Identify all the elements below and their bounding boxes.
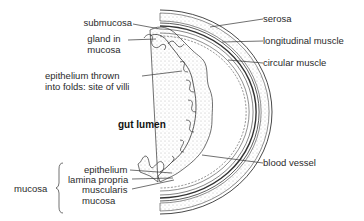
label-circular-muscle: circular muscle <box>263 57 326 68</box>
label-mucosa: mucosa <box>14 183 47 194</box>
label-muscularis-mucosa: muscularis mucosa <box>82 184 127 206</box>
label-serosa: serosa <box>263 13 292 24</box>
label-longitudinal-muscle: longitudinal muscle <box>263 35 344 46</box>
gut-wall-cross-section <box>0 0 364 221</box>
label-gland-in-mucosa: gland in mucosa <box>82 33 126 55</box>
label-submucosa: submucosa <box>58 17 132 28</box>
label-blood-vessel: blood vessel <box>263 157 316 168</box>
mucosa-bracket <box>56 163 63 213</box>
label-gut-lumen: gut lumen <box>118 119 166 130</box>
label-epithelium-folds: epithelium thrown into folds: site of vi… <box>45 70 129 92</box>
mucosa-folds <box>138 27 213 182</box>
